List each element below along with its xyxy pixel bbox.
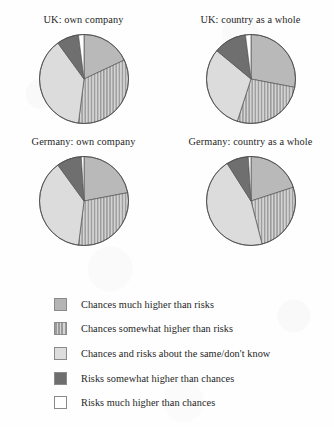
pie-svg xyxy=(38,33,130,125)
legend: Chances much higher than risks Chances s… xyxy=(54,292,330,415)
pie-canvas xyxy=(0,33,167,125)
legend-item: Risks much higher than chances xyxy=(54,390,330,415)
legend-item-label: Risks much higher than chances xyxy=(81,397,215,408)
legend-item: Risks somewhat higher than chances xyxy=(54,366,330,391)
legend-item: Chances and risks about the same/don't k… xyxy=(54,341,330,366)
pie-svg xyxy=(38,155,130,247)
legend-item-label: Chances somewhat higher than risks xyxy=(81,323,233,334)
legend-swatch-icon xyxy=(54,298,67,311)
chart-title: Germany: own company xyxy=(0,136,167,147)
legend-swatch-icon xyxy=(54,322,67,335)
pie-chart-uk-own-company: UK: own company xyxy=(0,0,167,134)
legend-item: Chances somewhat higher than risks xyxy=(54,317,330,342)
chart-title: UK: country as a whole xyxy=(167,14,334,25)
legend-swatch-icon xyxy=(54,372,67,385)
pie-chart-germany-country-as-a-whole: Germany: country as a whole xyxy=(167,122,334,256)
legend-item: Chances much higher than risks xyxy=(54,292,330,317)
pie-slice xyxy=(251,35,296,88)
pie-chart-grid: UK: own company UK: country as a whole G… xyxy=(0,0,334,268)
legend-item-label: Chances and risks about the same/don't k… xyxy=(81,348,270,359)
pie-canvas xyxy=(0,155,167,247)
pie-svg xyxy=(205,33,297,125)
pie-svg xyxy=(205,155,297,247)
pie-canvas xyxy=(167,155,334,247)
chart-title: Germany: country as a whole xyxy=(167,136,334,147)
pie-canvas xyxy=(167,33,334,125)
chart-title: UK: own company xyxy=(0,14,167,25)
pie-slice xyxy=(78,193,128,246)
legend-swatch-icon xyxy=(54,347,67,360)
figure-root: UK: own company UK: country as a whole G… xyxy=(0,0,334,427)
pie-chart-uk-country-as-a-whole: UK: country as a whole xyxy=(167,0,334,134)
legend-swatch-icon xyxy=(54,396,67,409)
pie-chart-germany-own-company: Germany: own company xyxy=(0,122,167,256)
legend-item-label: Chances much higher than risks xyxy=(81,299,214,310)
legend-item-label: Risks somewhat higher than chances xyxy=(81,373,234,384)
